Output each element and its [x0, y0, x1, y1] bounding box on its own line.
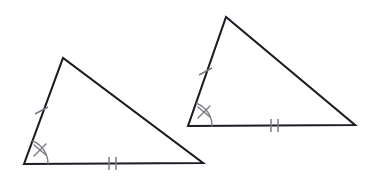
right-triangle [188, 17, 355, 132]
right-triangle-outline [188, 17, 355, 126]
left-triangle-outline [24, 58, 203, 164]
left-triangle [24, 58, 203, 170]
left-triangle-left-side-tick-1 [35, 107, 48, 114]
geometry-canvas [0, 0, 380, 180]
congruent-triangles-figure [0, 0, 380, 180]
